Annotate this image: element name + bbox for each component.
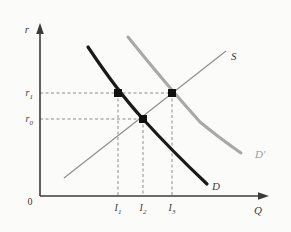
supply-curve-label: S [231, 50, 237, 62]
point-r1-I1 [114, 89, 122, 97]
supply-demand-chart: r Q 0 r1 r0 I1 I2 I3 D D' S [0, 0, 291, 232]
demand-curve-label: D [211, 180, 220, 192]
figure-container: r Q 0 r1 r0 I1 I2 I3 D D' S [0, 0, 291, 232]
shifted-demand-curve-label: D' [254, 148, 266, 160]
quantity-axis-label: Q [254, 204, 262, 216]
origin-label: 0 [28, 196, 33, 207]
point-r0-I2 [139, 115, 147, 123]
interest-rate-axis-label: r [25, 23, 30, 35]
point-r1-I3 [168, 89, 176, 97]
